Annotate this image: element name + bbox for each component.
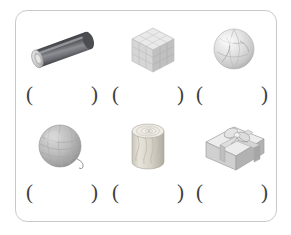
open-paren: ( [196,182,203,203]
yarn-ball-sphere-icon [20,117,104,179]
open-paren: ( [196,84,203,105]
answer-row-yarn-ball-sphere: ( ) [20,177,104,207]
close-paren: ) [261,84,268,105]
worksheet-cell-gift-box-cuboid: ( ) [190,117,274,213]
worksheet-cell-sphere-globe: ( ) [190,19,274,115]
answer-row-sphere-globe: ( ) [190,79,274,109]
answer-blank-gift-box-cuboid[interactable] [203,183,261,201]
open-paren: ( [26,182,33,203]
worksheet-cell-yarn-ball-sphere: ( ) [20,117,104,213]
answer-row-cube: ( ) [106,79,190,109]
open-paren: ( [112,84,119,105]
answer-row-wooden-log-cylinder: ( ) [106,177,190,207]
cube-icon [106,19,190,81]
close-paren: ) [261,182,268,203]
open-paren: ( [112,182,119,203]
close-paren: ) [91,182,98,203]
cylinder-tube-icon [20,19,104,81]
answer-blank-yarn-ball-sphere[interactable] [33,183,91,201]
sphere-globe-icon [190,19,274,81]
worksheet-cell-cylinder-tube: ( ) [20,19,104,115]
worksheet-cell-wooden-log-cylinder: ( ) [106,117,190,213]
gift-box-cuboid-icon [190,117,274,179]
worksheet-row-2: ( ) [16,117,276,213]
close-paren: ) [177,84,184,105]
worksheet-row-1: ( ) [16,19,276,115]
answer-blank-cylinder-tube[interactable] [33,85,91,103]
answer-blank-cube[interactable] [119,85,177,103]
worksheet-frame: ( ) [15,10,277,222]
answer-row-cylinder-tube: ( ) [20,79,104,109]
answer-blank-sphere-globe[interactable] [203,85,261,103]
open-paren: ( [26,84,33,105]
wooden-log-cylinder-icon [106,117,190,179]
close-paren: ) [91,84,98,105]
close-paren: ) [177,182,184,203]
answer-row-gift-box-cuboid: ( ) [190,177,274,207]
answer-blank-wooden-log-cylinder[interactable] [119,183,177,201]
worksheet-cell-cube: ( ) [106,19,190,115]
